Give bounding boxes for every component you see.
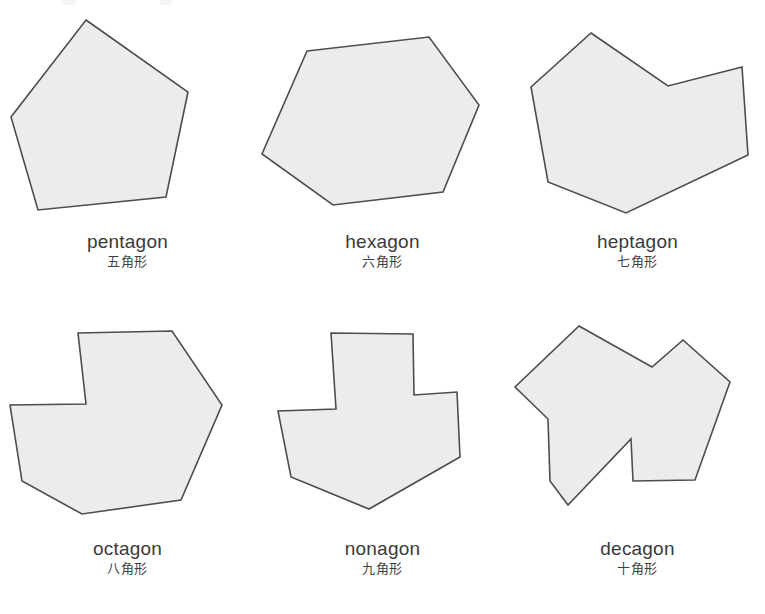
decagon-label-cjk: 十角形 <box>510 562 765 576</box>
hexagon-polygon <box>262 37 479 205</box>
octagon-labels: octagon 八角形 <box>0 539 255 576</box>
polygon-chart-sheet: pentagon 五角形 hexagon 六角形 heptago <box>0 0 765 614</box>
hexagon-shape <box>255 0 510 232</box>
decagon-label-en: decagon <box>510 539 765 559</box>
heptagon-labels: heptagon 七角形 <box>510 232 765 269</box>
pentagon-shape <box>0 0 255 232</box>
heptagon-svg <box>510 0 765 232</box>
decagon-polygon <box>515 326 730 505</box>
polygon-cell-octagon: octagon 八角形 <box>0 307 255 614</box>
decagon-shape <box>510 307 765 539</box>
pentagon-svg <box>0 0 255 232</box>
polygon-row-top: pentagon 五角形 hexagon 六角形 heptago <box>0 0 765 307</box>
hexagon-label-cjk: 六角形 <box>255 255 510 269</box>
hexagon-labels: hexagon 六角形 <box>255 232 510 269</box>
nonagon-shape <box>255 307 510 539</box>
nonagon-label-en: nonagon <box>255 539 510 559</box>
pentagon-label-cjk: 五角形 <box>0 255 255 269</box>
heptagon-label-cjk: 七角形 <box>510 255 765 269</box>
heptagon-label-en: heptagon <box>510 232 765 252</box>
polygon-cell-hexagon: hexagon 六角形 <box>255 0 510 307</box>
octagon-shape <box>0 307 255 539</box>
decagon-svg <box>510 307 765 539</box>
pentagon-label-en: pentagon <box>0 232 255 252</box>
polygon-cell-nonagon: nonagon 九角形 <box>255 307 510 614</box>
nonagon-label-cjk: 九角形 <box>255 562 510 576</box>
polygon-cell-pentagon: pentagon 五角形 <box>0 0 255 307</box>
polygon-cell-decagon: decagon 十角形 <box>510 307 765 614</box>
nonagon-svg <box>255 307 510 539</box>
pentagon-polygon <box>11 20 188 210</box>
hexagon-label-en: hexagon <box>255 232 510 252</box>
decagon-labels: decagon 十角形 <box>510 539 765 576</box>
nonagon-labels: nonagon 九角形 <box>255 539 510 576</box>
polygon-row-bottom: octagon 八角形 nonagon 九角形 decagon <box>0 307 765 614</box>
heptagon-polygon <box>531 33 748 213</box>
octagon-polygon <box>10 331 222 514</box>
octagon-label-en: octagon <box>0 539 255 559</box>
pentagon-labels: pentagon 五角形 <box>0 232 255 269</box>
heptagon-shape <box>510 0 765 232</box>
nonagon-polygon <box>278 333 460 509</box>
octagon-label-cjk: 八角形 <box>0 562 255 576</box>
polygon-cell-heptagon: heptagon 七角形 <box>510 0 765 307</box>
octagon-svg <box>0 307 255 539</box>
hexagon-svg <box>255 0 510 232</box>
